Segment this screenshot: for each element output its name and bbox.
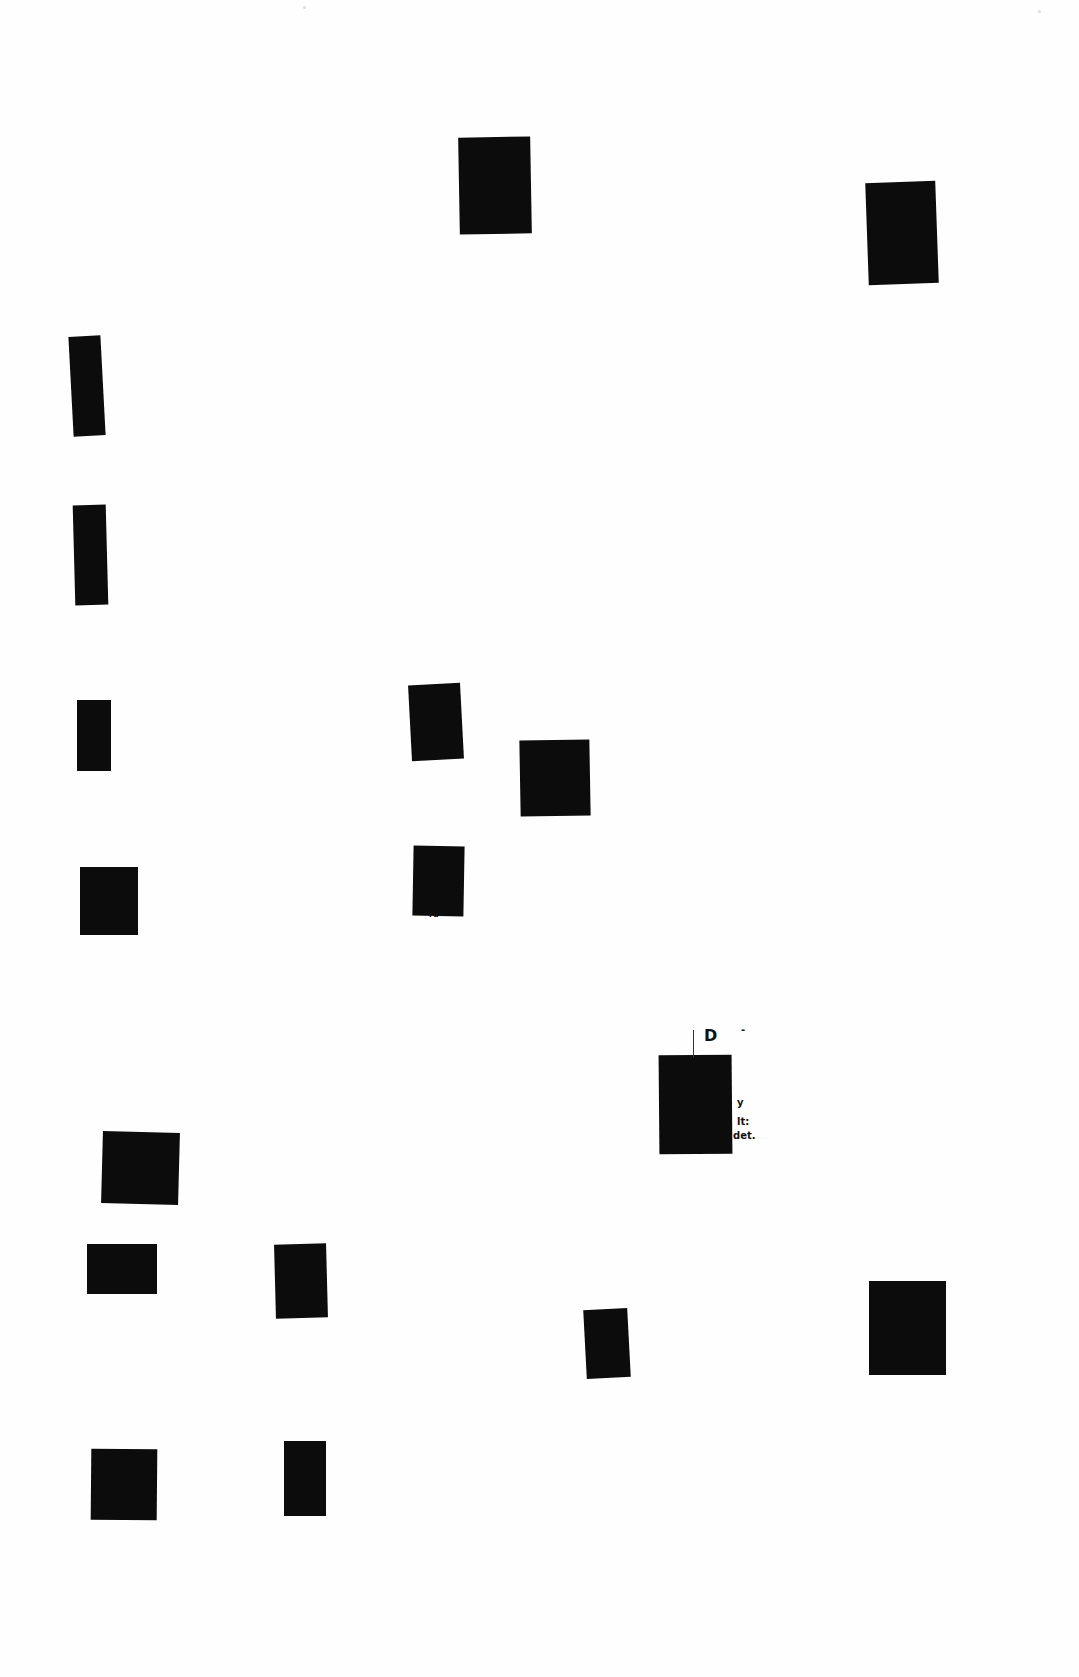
- redaction-block: [91, 1449, 158, 1521]
- redaction-block: [869, 1281, 946, 1375]
- margin-tick-mark: [693, 1030, 694, 1058]
- redaction-block: [274, 1243, 328, 1318]
- scan-speck: [303, 6, 306, 9]
- text-fragment: -: [741, 1025, 745, 1035]
- text-fragment: det.: [733, 1131, 756, 1141]
- text-fragment: D: [704, 1028, 717, 1044]
- redaction-block: [68, 335, 105, 437]
- redaction-block: [408, 683, 464, 762]
- redaction-block: [101, 1131, 180, 1205]
- redaction-block: [87, 1244, 157, 1294]
- text-fragment: lt:: [737, 1117, 749, 1127]
- redaction-block: [80, 867, 138, 935]
- scan-speck: [1038, 10, 1041, 13]
- redaction-block: [412, 846, 464, 917]
- redaction-block: [77, 700, 111, 771]
- redaction-block: [284, 1441, 326, 1516]
- redaction-block: [659, 1055, 733, 1155]
- text-fragment: ru: [429, 911, 439, 919]
- redaction-block: [458, 136, 532, 234]
- redaction-block: [865, 181, 939, 285]
- scanned-document-page: D - y lt: det. ru: [0, 0, 1079, 1677]
- redaction-block: [519, 739, 590, 816]
- redaction-block: [583, 1308, 631, 1379]
- redaction-block: [73, 505, 109, 606]
- text-fragment: y: [737, 1098, 744, 1108]
